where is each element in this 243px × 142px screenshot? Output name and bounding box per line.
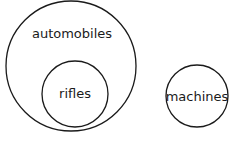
machines-label: machines: [166, 89, 229, 104]
automobiles-label: automobiles: [32, 26, 112, 41]
automobiles-circle: [6, 1, 136, 131]
rifles-label: rifles: [59, 86, 91, 101]
venn-diagram: automobiles rifles machines: [0, 0, 243, 142]
